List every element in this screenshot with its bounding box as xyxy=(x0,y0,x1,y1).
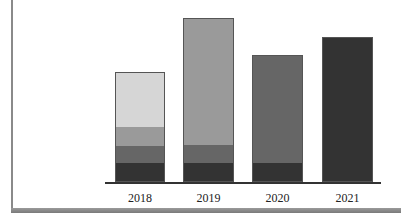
bar-segment xyxy=(116,127,164,146)
bar-segment xyxy=(323,38,372,181)
bar-segment xyxy=(253,56,302,163)
bar-2020 xyxy=(252,55,303,182)
x-tick-label: 2018 xyxy=(110,191,170,206)
bar-2018 xyxy=(115,72,165,182)
chart-frame-bottom-shadow xyxy=(11,208,401,213)
x-tick-label: 2021 xyxy=(318,191,378,206)
chart-frame-left-border xyxy=(11,0,13,211)
x-tick-label: 2019 xyxy=(179,191,239,206)
bar-2021 xyxy=(322,37,373,182)
bar-segment xyxy=(184,145,233,163)
bar-segment xyxy=(184,163,233,181)
bar-segment xyxy=(253,163,302,181)
bar-segment xyxy=(184,19,233,145)
x-tick-label: 2020 xyxy=(248,191,308,206)
x-axis-line xyxy=(105,182,381,184)
bar-segment xyxy=(116,163,164,181)
bar-segment xyxy=(116,146,164,164)
bar-segment xyxy=(116,73,164,127)
bar-2019 xyxy=(183,18,234,182)
